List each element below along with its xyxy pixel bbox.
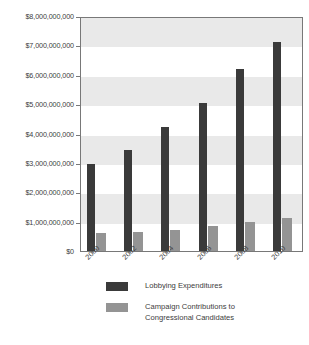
bar-lobbying-2004 <box>161 127 169 251</box>
y-tick-label: $4,000,000,000 <box>0 131 74 139</box>
y-tick-label: $3,000,000,000 <box>0 160 74 168</box>
bar-lobbying-2008 <box>236 69 244 251</box>
bar-lobbying-2006 <box>199 103 207 251</box>
legend-swatch-lobbying <box>106 282 128 291</box>
y-axis: $0$1,000,000,000$2,000,000,000$3,000,000… <box>0 0 74 345</box>
legend-label-campaign-line1: Campaign Contributions to <box>145 302 235 311</box>
legend-swatch-campaign <box>106 303 128 312</box>
legend-label-campaign-line2: Congressional Candidates <box>145 313 234 322</box>
y-tick-label: $1,000,000,000 <box>0 219 74 227</box>
y-tick-mark <box>76 46 80 47</box>
bar-lobbying-2010 <box>273 42 281 251</box>
y-tick-label: $8,000,000,000 <box>0 13 74 21</box>
plot-band <box>81 77 302 106</box>
chart-legend: Lobbying Expenditures Campaign Contribut… <box>106 281 306 333</box>
plot-band <box>81 18 302 47</box>
y-tick-mark <box>76 223 80 224</box>
y-tick-mark <box>76 76 80 77</box>
legend-label-lobbying: Lobbying Expenditures <box>145 281 306 292</box>
y-tick-label: $0 <box>0 248 74 256</box>
plot-band <box>81 194 302 223</box>
legend-item-lobbying: Lobbying Expenditures <box>106 281 306 292</box>
y-tick-mark <box>76 105 80 106</box>
bar-lobbying-2000 <box>87 164 95 251</box>
y-tick-mark <box>76 17 80 18</box>
y-tick-label: $2,000,000,000 <box>0 189 74 197</box>
y-tick-label: $7,000,000,000 <box>0 42 74 50</box>
bar-chart: $0$1,000,000,000$2,000,000,000$3,000,000… <box>0 0 309 345</box>
legend-item-campaign: Campaign Contributions to Congressional … <box>106 302 306 323</box>
legend-label-campaign: Campaign Contributions to Congressional … <box>145 302 306 323</box>
plot-band <box>81 136 302 165</box>
y-tick-mark <box>76 193 80 194</box>
y-tick-mark <box>76 135 80 136</box>
plot-area <box>80 17 303 252</box>
bar-lobbying-2002 <box>124 150 132 251</box>
y-tick-mark <box>76 164 80 165</box>
y-tick-label: $6,000,000,000 <box>0 72 74 80</box>
y-tick-label: $5,000,000,000 <box>0 101 74 109</box>
